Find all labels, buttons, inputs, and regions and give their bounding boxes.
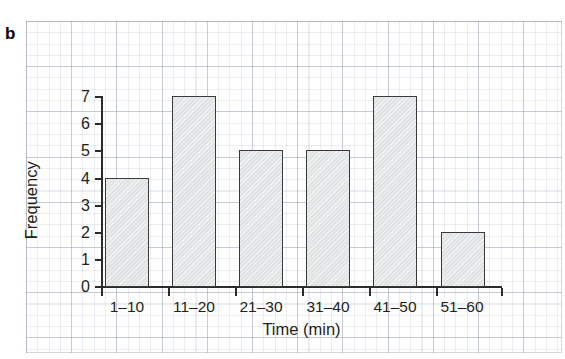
x-tick-mark-1 [168,288,170,296]
bar-21-30 [239,150,283,287]
bar-11-20 [172,96,216,287]
y-tick-label-4: 4 [64,171,90,187]
y-tick-mark-2 [95,232,102,234]
x-tick-mark-6 [501,288,503,296]
x-tick-mark-3 [302,288,304,296]
y-tick-label-7: 7 [64,89,90,105]
x-tick-mark-0 [101,288,103,296]
y-tick-label-3: 3 [64,198,90,214]
y-tick-mark-4 [95,178,102,180]
y-tick-label-0: 0 [64,279,90,295]
x-tick-label-11-20: 11–20 [158,299,230,315]
x-tick-mark-2 [235,288,237,296]
bar-41-50 [373,96,417,287]
x-tick-label-51-60: 51–60 [426,299,498,315]
bar-1-10 [105,178,149,287]
x-tick-label-1-10: 1–10 [91,299,163,315]
y-tick-mark-1 [95,259,102,261]
x-tick-mark-4 [369,288,371,296]
y-tick-mark-6 [95,123,102,125]
x-tick-label-31-40: 31–40 [292,299,364,315]
y-tick-mark-3 [95,205,102,207]
x-tick-label-21-30: 21–30 [225,299,297,315]
y-tick-mark-7 [95,96,102,98]
y-tick-label-1: 1 [64,252,90,268]
y-axis-title: Frequency [23,140,40,260]
histogram-plot: 0 1 2 3 4 5 6 7 1–10 11–20 21–30 31–40 4… [0,0,565,359]
bar-31-40 [306,150,350,287]
y-tick-label-2: 2 [64,225,90,241]
y-tick-label-6: 6 [64,116,90,132]
x-tick-label-41-50: 41–50 [359,299,431,315]
x-tick-mark-5 [436,288,438,296]
x-axis-title: Time (min) [101,321,502,338]
y-tick-mark-5 [95,150,102,152]
bar-51-60 [441,232,485,287]
y-tick-label-5: 5 [64,143,90,159]
